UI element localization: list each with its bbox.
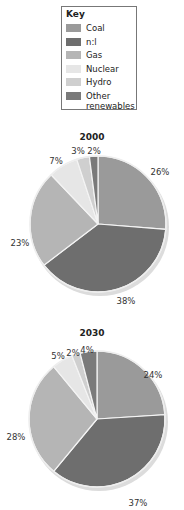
pie-slice-coal xyxy=(97,351,165,419)
legend-item: Gas xyxy=(66,48,132,62)
slice-label: 2% xyxy=(66,348,80,358)
slice-label: 23% xyxy=(11,238,30,248)
legend-title: Key xyxy=(66,9,132,20)
legend-swatch xyxy=(66,51,81,59)
slice-label: 28% xyxy=(7,432,26,442)
legend-swatch xyxy=(66,78,81,86)
legend-swatch xyxy=(66,38,81,46)
legend-label: Other renewables xyxy=(86,89,135,113)
legend-swatch xyxy=(66,65,81,73)
slice-label: 4% xyxy=(80,345,94,355)
slice-label: 38% xyxy=(117,296,136,306)
legend-label: Hydro xyxy=(86,75,132,89)
legend: Key Coaln:lGasNuclearHydroOther renewabl… xyxy=(61,6,137,110)
legend-item: Other renewables xyxy=(66,89,132,113)
slice-label: 37% xyxy=(129,498,148,508)
slice-label: 2% xyxy=(87,146,101,156)
legend-swatch xyxy=(66,24,81,32)
legend-item: Coal xyxy=(66,21,132,35)
legend-label: n:l xyxy=(86,35,132,49)
legend-item: n:l xyxy=(66,35,132,49)
pie-chart-2000: 26%38%23%7%3%2% xyxy=(0,140,184,310)
legend-label: Nuclear xyxy=(86,62,132,76)
slice-label: 7% xyxy=(49,156,63,166)
slice-label: 24% xyxy=(144,370,163,380)
legend-label: Coal xyxy=(86,21,132,35)
slice-label: 3% xyxy=(71,146,85,156)
pie-chart-2030: 24%37%28%5%2%4% xyxy=(0,336,184,510)
legend-swatch xyxy=(66,92,81,100)
slice-label: 5% xyxy=(51,351,65,361)
legend-item: Hydro xyxy=(66,75,132,89)
legend-item: Nuclear xyxy=(66,62,132,76)
legend-label: Gas xyxy=(86,48,132,62)
slice-label: 26% xyxy=(151,167,170,177)
